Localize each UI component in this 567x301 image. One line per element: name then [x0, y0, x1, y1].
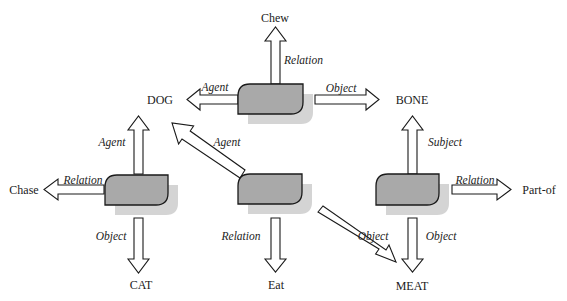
role-chase-agent: Agent: [98, 136, 127, 149]
concept-bone: BONE: [396, 93, 429, 107]
arrow-chew-relation: [265, 27, 286, 84]
role-chase-relation: Relation: [63, 174, 103, 186]
arrow-partof-object: [402, 218, 423, 272]
arrow-eat-agent: [172, 123, 245, 178]
role-chew-relation: Relation: [283, 54, 323, 66]
partof-node: [376, 174, 439, 205]
eat-node: [238, 174, 302, 204]
role-eat-agent: Agent: [213, 136, 242, 149]
concept-part-of: Part-of: [522, 183, 555, 197]
concept-chew: Chew: [261, 11, 289, 25]
chew-node: [238, 84, 303, 114]
role-eat-object: Object: [358, 230, 389, 243]
concept-cat: CAT: [130, 278, 153, 292]
arrow-chase-object: [128, 218, 149, 273]
concept-chase: Chase: [9, 183, 38, 197]
arrow-partof-subject: [402, 116, 423, 174]
role-partof-subject: Subject: [428, 136, 463, 149]
role-partof-relation: Relation: [455, 174, 495, 186]
concept-eat: Eat: [268, 278, 285, 292]
arrow-eat-relation: [265, 218, 286, 272]
role-partof-object: Object: [426, 230, 457, 243]
arrow-chase-agent: [128, 116, 149, 174]
role-chew-agent: Agent: [201, 81, 230, 94]
role-chase-object: Object: [96, 230, 127, 243]
chase-node: [105, 175, 168, 205]
semantic-network-diagram: Chew DOG BONE Chase CAT Eat MEAT Part-of…: [0, 0, 567, 301]
concept-meat: MEAT: [396, 279, 429, 293]
role-chew-object: Object: [326, 82, 357, 95]
role-eat-relation: Relation: [221, 230, 261, 242]
concept-dog: DOG: [147, 93, 173, 107]
